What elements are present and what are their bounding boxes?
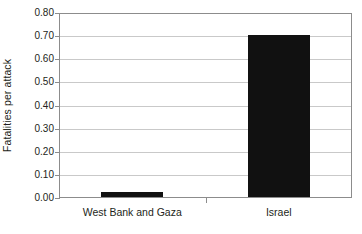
y-axis-title: Fatalities per attack bbox=[0, 13, 14, 198]
x-axis-category-label: Israel bbox=[206, 205, 353, 219]
y-axis-tick-labels: 0.000.100.200.300.400.500.600.700.80 bbox=[20, 13, 54, 198]
y-axis-tick-label: 0.00 bbox=[20, 193, 54, 203]
y-axis-tick-label: 0.50 bbox=[20, 77, 54, 87]
bar bbox=[248, 35, 310, 197]
bar bbox=[101, 192, 163, 197]
y-axis-tick-label: 0.30 bbox=[20, 124, 54, 134]
y-axis-tick-label: 0.60 bbox=[20, 54, 54, 64]
plot-area bbox=[59, 13, 352, 198]
x-axis-category-labels: West Bank and GazaIsrael bbox=[59, 205, 352, 221]
y-axis-tick-label: 0.20 bbox=[20, 147, 54, 157]
bar-chart: Fatalities per attack 0.000.100.200.300.… bbox=[0, 0, 362, 234]
y-axis-tick-label: 0.70 bbox=[20, 31, 54, 41]
x-axis-tick-marks bbox=[59, 198, 352, 203]
x-axis-category-label: West Bank and Gaza bbox=[59, 205, 206, 219]
y-axis-tick-label: 0.10 bbox=[20, 170, 54, 180]
x-axis-tick-mark bbox=[206, 198, 207, 203]
y-axis-tick-label: 0.40 bbox=[20, 101, 54, 111]
y-axis-tick-label: 0.80 bbox=[20, 8, 54, 18]
